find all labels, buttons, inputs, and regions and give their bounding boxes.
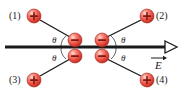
positive-charge-1 (27, 9, 41, 23)
negative-charge-lower-right (95, 49, 109, 63)
charge-label-1: (1) (9, 11, 21, 21)
theta-upper-right-label: θ (121, 36, 125, 45)
negative-charge-lower-left (68, 49, 82, 63)
physics-diagram-charges-in-field: (1) (2) (3) (4) θ θ θ θ E (0, 0, 183, 96)
arc-lower-left (61, 47, 66, 59)
efield-label: E (155, 60, 162, 71)
axis-arrowhead-icon (165, 41, 177, 53)
positive-charge-3 (27, 73, 41, 87)
charge-label-3: (3) (9, 75, 21, 85)
charge-label-2: (2) (156, 11, 168, 21)
arc-upper-left (61, 36, 66, 47)
theta-upper-left-label: θ (52, 36, 56, 45)
theta-lower-left-label: θ (52, 54, 56, 63)
negative-charge-upper-left (68, 33, 82, 47)
electric-field-axis (5, 41, 177, 53)
theta-lower-right-label: θ (121, 54, 125, 63)
positive-charge-2 (140, 9, 154, 23)
positive-charge-4 (140, 73, 154, 87)
arc-lower-right (111, 47, 116, 59)
negative-charge-upper-right (95, 33, 109, 47)
arc-upper-right (111, 36, 116, 47)
charge-label-4: (4) (156, 75, 168, 85)
